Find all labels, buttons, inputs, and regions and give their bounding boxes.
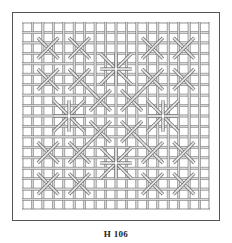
figure-caption: H 106 [0,229,232,239]
lattice-pattern [22,22,210,210]
